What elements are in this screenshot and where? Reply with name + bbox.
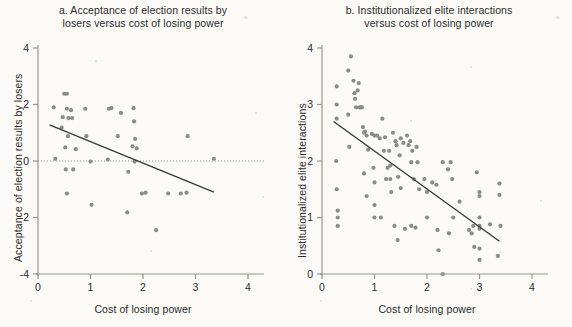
scatter-point	[498, 224, 502, 228]
scatter-point	[353, 97, 357, 101]
scatter-point	[409, 160, 413, 164]
scatter-point	[409, 224, 413, 228]
scatter-point	[403, 227, 407, 231]
scatter-point	[357, 81, 361, 85]
scatter-point	[135, 146, 139, 150]
scatter-point	[414, 145, 418, 149]
panel-b-xlabel: Cost of losing power	[312, 303, 542, 315]
scatter-point	[70, 116, 74, 120]
scatter-point	[335, 84, 339, 88]
scatter-point	[65, 92, 69, 96]
scatter-point	[396, 175, 400, 179]
y-tick-label: 2	[23, 98, 29, 110]
scatter-point	[53, 157, 57, 161]
scatter-point	[52, 105, 56, 109]
scan-speck	[95, 60, 97, 62]
y-tick-label: 3	[307, 98, 313, 110]
scatter-point	[387, 149, 391, 153]
scatter-point	[126, 170, 130, 174]
scatter-point	[106, 157, 110, 161]
scatter-point	[212, 157, 216, 161]
scatter-point	[372, 180, 376, 184]
panel-b-ylabel: Institutionalized elite interactions	[296, 103, 308, 258]
scatter-point	[109, 106, 113, 110]
scan-speck	[556, 16, 559, 19]
scatter-point	[89, 203, 93, 207]
scatter-point	[405, 133, 409, 137]
scatter-point	[415, 160, 419, 164]
scatter-point	[352, 91, 356, 95]
scatter-point	[379, 215, 383, 219]
scatter-point	[408, 139, 412, 143]
scatter-point	[61, 115, 65, 119]
x-tick-label: 3	[193, 281, 199, 293]
scatter-point	[472, 245, 476, 249]
scatter-point	[144, 191, 148, 195]
scatter-point	[372, 215, 376, 219]
scatter-point	[393, 139, 397, 143]
scatter-point	[477, 190, 481, 194]
scatter-point	[388, 177, 392, 181]
scatter-point	[130, 144, 134, 148]
scatter-point	[436, 248, 440, 252]
y-tick-label: 4	[23, 42, 29, 54]
scatter-point	[392, 224, 396, 228]
panel-b: b. Institutionalized elite interactions …	[286, 0, 572, 327]
scatter-point	[336, 209, 340, 213]
scatter-point	[449, 160, 453, 164]
scatter-point	[383, 135, 387, 139]
scatter-point	[430, 180, 434, 184]
scatter-point	[389, 190, 393, 194]
scatter-point	[434, 183, 438, 187]
scatter-point	[361, 125, 365, 129]
scatter-point	[131, 106, 135, 110]
scatter-point	[66, 134, 70, 138]
scatter-point	[83, 107, 87, 111]
scatter-point	[74, 147, 78, 151]
scatter-point	[346, 69, 350, 73]
panel-a-xlabel: Cost of losing power	[28, 303, 258, 315]
scatter-point	[425, 215, 429, 219]
scan-speck	[262, 196, 264, 198]
scatter-point	[336, 224, 340, 228]
scatter-point	[119, 111, 123, 115]
scan-speck	[244, 16, 247, 19]
scatter-point	[497, 193, 501, 197]
x-tick-label: 3	[477, 281, 483, 293]
scatter-point	[132, 119, 136, 123]
scan-speck	[30, 300, 32, 302]
scatter-point	[347, 145, 351, 149]
scatter-point	[477, 246, 481, 250]
scatter-point	[349, 54, 353, 58]
scatter-point	[184, 191, 188, 195]
scatter-point	[133, 137, 137, 141]
scatter-point	[497, 182, 501, 186]
x-tick-label: 0	[35, 281, 41, 293]
scatter-point	[125, 210, 129, 214]
panel-a: a. Acceptance of election results by los…	[0, 0, 286, 327]
scatter-point	[363, 130, 367, 134]
y-tick-label: -4	[20, 268, 29, 280]
panel-a-plot: 01234420-2-4	[0, 0, 286, 327]
scatter-point	[371, 166, 375, 170]
scatter-point	[88, 159, 92, 163]
scatter-point	[365, 194, 369, 198]
scatter-point	[435, 228, 439, 232]
scan-speck	[470, 288, 472, 290]
scatter-point	[475, 170, 479, 174]
scatter-point	[380, 117, 384, 121]
scatter-point	[446, 167, 450, 171]
scatter-point	[398, 153, 402, 157]
x-tick-label: 2	[140, 281, 146, 293]
scatter-point	[457, 200, 461, 204]
scatter-point	[488, 222, 492, 226]
y-tick-label: 2	[307, 155, 313, 167]
scatter-point	[69, 108, 73, 112]
scatter-point	[351, 79, 355, 83]
scatter-point	[407, 143, 411, 147]
regression-line	[334, 121, 500, 241]
scatter-point	[336, 215, 340, 219]
scatter-point	[399, 136, 403, 140]
scatter-point	[451, 215, 455, 219]
scatter-point	[346, 113, 350, 117]
